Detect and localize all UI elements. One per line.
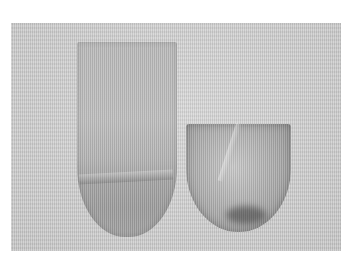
tall-fabric-pocket — [77, 42, 177, 237]
photo — [11, 23, 341, 251]
fabric-crease — [218, 123, 242, 182]
fabric-fold — [79, 170, 173, 185]
fabric-shadow — [226, 206, 266, 224]
short-fabric-pocket — [186, 124, 291, 232]
